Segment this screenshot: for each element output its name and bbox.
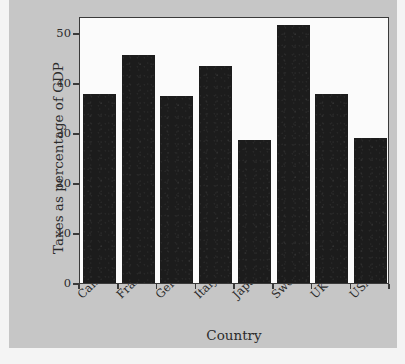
chart-screenshot: Taxes as percentage of GDP 01020304050 C… [0,0,405,364]
x-tick-mark [388,284,390,289]
bar-france [122,55,155,283]
bar-italy [199,66,232,283]
bar-sweden [277,25,310,283]
bar-usa [354,138,387,283]
y-tick-label: 40 [27,78,71,90]
plot-area [80,18,388,283]
bar-canada [83,94,116,283]
figure-canvas: Taxes as percentage of GDP 01020304050 C… [9,0,397,348]
bar-germany [160,96,193,283]
x-axis-label: Country [79,327,389,343]
bar-japan [238,140,271,283]
plot-frame [79,17,389,284]
y-tick-label: 30 [27,128,71,140]
y-tick-label: 10 [27,228,71,240]
y-tick-label: 50 [27,28,71,40]
y-tick-label: 0 [27,278,71,290]
y-tick-label: 20 [27,178,71,190]
bar-uk [315,94,348,283]
